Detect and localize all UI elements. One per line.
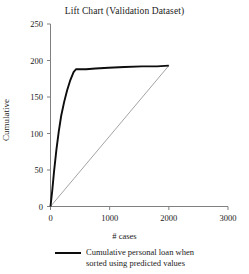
y-axis-tick-label: 0 — [14, 202, 43, 211]
legend-line-swatch — [55, 252, 81, 254]
y-axis-tick-label: 50 — [14, 166, 43, 175]
x-axis-tick-label: 1000 — [101, 214, 118, 223]
data-series-layer — [51, 66, 169, 207]
x-axis-tick-label: 2000 — [160, 214, 177, 223]
x-axis-tick-label: 0 — [48, 214, 52, 223]
x-axis-title: # cases — [0, 231, 249, 241]
y-axis-tick-label: 100 — [14, 129, 43, 138]
y-axis-ticks — [47, 24, 51, 207]
legend-label-line2: sorted using predicted values — [86, 258, 185, 268]
y-axis-title: Cumulative — [1, 99, 11, 141]
y-axis-tick-label: 250 — [14, 20, 43, 29]
x-axis-ticks — [51, 207, 229, 211]
y-axis-tick-label: 200 — [14, 56, 43, 65]
lift-chart-figure: Lift Chart (Validation Dataset) 05010015… — [0, 0, 249, 274]
y-axis-tick-label: 150 — [14, 93, 43, 102]
legend-label-line1: Cumulative personal loan when — [86, 247, 194, 257]
chart-legend: Cumulative personal loan when sorted usi… — [0, 247, 249, 269]
x-axis-tick-label: 3000 — [220, 214, 237, 223]
legend-entry: Cumulative personal loan when sorted usi… — [55, 247, 194, 269]
legend-label: Cumulative personal loan when sorted usi… — [86, 247, 194, 269]
